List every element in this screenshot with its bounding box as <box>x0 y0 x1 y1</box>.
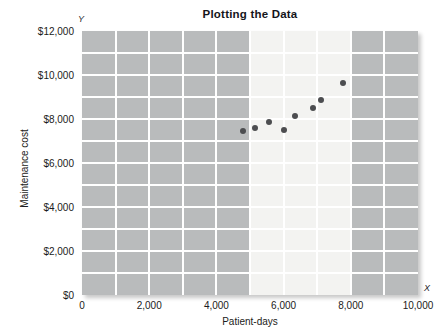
x-tick-label: 0 <box>79 300 85 311</box>
data-point <box>281 127 287 133</box>
gridline-horizontal <box>82 272 418 274</box>
gridline-horizontal <box>82 162 418 164</box>
y-axis-title: Maintenance cost <box>19 109 30 229</box>
plot-area <box>82 31 418 295</box>
y-tick-label: $10,000 <box>38 70 74 81</box>
gridline-horizontal <box>82 118 418 120</box>
x-tick-label: 8,000 <box>338 300 363 311</box>
x-axis-title: Patient-days <box>82 316 418 327</box>
x-tick-label: 4,000 <box>204 300 229 311</box>
data-point <box>266 119 272 125</box>
data-point <box>292 113 298 119</box>
data-point <box>318 97 324 103</box>
x-tick-label: 6,000 <box>271 300 296 311</box>
y-tick-label: $12,000 <box>38 26 74 37</box>
y-tick-label: $0 <box>63 290 74 301</box>
gridline-horizontal <box>82 250 418 252</box>
gridline-horizontal <box>82 96 418 98</box>
data-point <box>252 125 258 131</box>
y-axis-marker: Y <box>78 14 84 24</box>
x-tick-label: 2,000 <box>137 300 162 311</box>
gridline-horizontal <box>82 140 418 142</box>
data-point <box>240 128 246 134</box>
gridline-horizontal <box>82 52 418 54</box>
chart-figure: Plotting the Data Y X $0$2,000$4,000$6,0… <box>0 0 448 332</box>
y-tick-label: $8,000 <box>43 114 74 125</box>
gridline-horizontal <box>82 206 418 208</box>
data-point <box>310 105 316 111</box>
y-tick-label: $2,000 <box>43 246 74 257</box>
x-tick-label: 10,000 <box>403 300 434 311</box>
chart-title: Plotting the Data <box>140 8 360 20</box>
gridline-horizontal <box>82 184 418 186</box>
gridline-horizontal <box>82 74 418 76</box>
y-tick-label: $4,000 <box>43 202 74 213</box>
y-tick-label: $6,000 <box>43 158 74 169</box>
gridline-horizontal <box>82 228 418 230</box>
x-axis-marker: X <box>424 283 430 293</box>
